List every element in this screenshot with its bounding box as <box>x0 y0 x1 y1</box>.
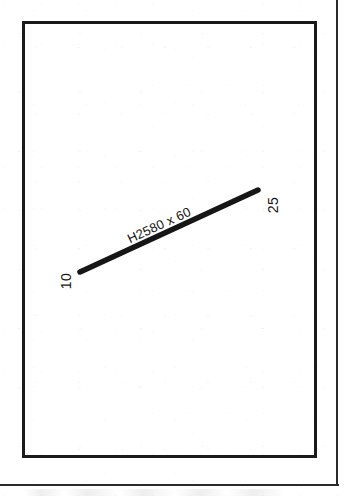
sheet-frame-right-line <box>336 0 338 486</box>
drawing-border-rectangle <box>22 21 317 458</box>
scan-smudge <box>24 489 314 496</box>
drawing-sheet: H2580 x 60 10 25 <box>0 0 348 499</box>
sheet-frame-bottom-line <box>0 484 339 486</box>
node-label-end: 25 <box>266 197 280 214</box>
node-label-start: 10 <box>59 273 73 290</box>
